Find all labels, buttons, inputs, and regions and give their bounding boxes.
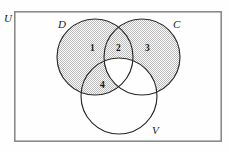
venn-diagram-figure: U D C V 1 2 3 4 — [0, 0, 229, 152]
venn-diagram-canvas: U D C V 1 2 3 4 — [0, 0, 229, 152]
set-label-c: C — [173, 18, 181, 30]
region-number-1: 1 — [90, 43, 95, 53]
region-number-2: 2 — [116, 43, 121, 53]
region-number-4: 4 — [100, 80, 105, 90]
set-label-v: V — [152, 124, 160, 136]
set-label-u: U — [4, 12, 13, 24]
region-number-3: 3 — [145, 43, 150, 53]
set-label-d: D — [57, 18, 66, 30]
